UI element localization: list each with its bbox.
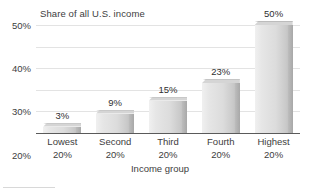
x-label-line-2: 20% — [142, 149, 195, 162]
x-axis-category-labels: Lowest20%Second20%Third20%Fourth20%Highe… — [36, 136, 300, 166]
bar[interactable] — [255, 25, 293, 133]
x-label-line-1: Third — [157, 136, 179, 147]
x-label-line-2: 20% — [89, 149, 142, 162]
bar-side-face — [182, 101, 187, 133]
bar-top-edge — [202, 79, 240, 80]
bar-series: 3%9%15%23%50% — [36, 25, 300, 133]
bar-value-label: 15% — [149, 84, 187, 95]
x-label-line-1: Second — [99, 136, 131, 147]
bar-side-face — [76, 127, 81, 133]
x-label-line-2: 20% — [36, 149, 89, 162]
y-axis-tick-label: 30% — [12, 106, 31, 117]
chart-title: Share of all U.S. income — [40, 8, 145, 19]
footer-rule — [3, 187, 55, 188]
bar-side-face — [129, 114, 134, 133]
x-axis-tick-label: Lowest20% — [36, 136, 89, 161]
x-label-line-2: 20% — [247, 149, 300, 162]
x-axis-tick-label: Third20% — [142, 136, 195, 161]
x-label-line-2: 20% — [194, 149, 247, 162]
x-label-line-1: Lowest — [47, 136, 77, 147]
bar-top-edge — [96, 110, 134, 111]
bar-value-label: 9% — [96, 97, 134, 108]
x-label-line-1: Fourth — [207, 136, 234, 147]
bar-side-face — [288, 25, 293, 133]
bar-value-label: 3% — [43, 110, 81, 121]
bar[interactable] — [149, 101, 187, 133]
y-axis-tick-label: 20% — [12, 149, 31, 160]
bar-value-label: 50% — [255, 8, 293, 19]
x-axis-tick-label: Second20% — [89, 136, 142, 161]
bar[interactable] — [96, 114, 134, 133]
bar-top-edge — [255, 21, 293, 22]
bar-column[interactable]: 50% — [255, 25, 293, 133]
bar-column[interactable]: 3% — [43, 25, 81, 133]
bar-top-edge — [43, 123, 81, 124]
bar[interactable] — [202, 83, 240, 133]
bar-column[interactable]: 9% — [96, 25, 134, 133]
axis-baseline: 0% — [36, 133, 300, 134]
y-axis-tick-label: 40% — [12, 63, 31, 74]
plot-area: 0%10%20%30%40%50% 3%9%15%23%50% — [36, 25, 300, 133]
x-axis-title: Income group — [0, 163, 320, 174]
bar-value-label: 23% — [202, 66, 240, 77]
bar-column[interactable]: 23% — [202, 25, 240, 133]
x-axis-tick-label: Highest20% — [247, 136, 300, 161]
bar-top-edge — [149, 97, 187, 98]
x-label-line-1: Highest — [257, 136, 289, 147]
bar[interactable] — [43, 127, 81, 133]
bar-side-face — [235, 83, 240, 133]
bar-chart: Share of all U.S. income 0%10%20%30%40%5… — [0, 0, 320, 192]
y-axis-tick-label: 50% — [12, 20, 31, 31]
bar-column[interactable]: 15% — [149, 25, 187, 133]
x-axis-tick-label: Fourth20% — [194, 136, 247, 161]
